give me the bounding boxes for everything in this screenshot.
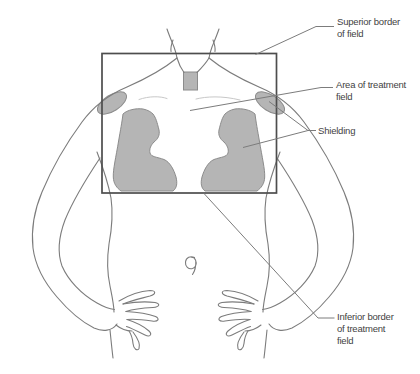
- inferior-border-label: Inferior border of treatment field: [337, 311, 394, 347]
- left-hand-finger-3: [126, 312, 158, 322]
- radiation-shields: [94, 72, 288, 191]
- right-arm-outer: [209, 58, 354, 330]
- neck-right-notch: [213, 40, 215, 52]
- inferior-border-label-line2: of treatment: [337, 323, 394, 335]
- inferior-border-label-line3: field: [337, 335, 394, 347]
- right-hand: [218, 291, 261, 350]
- vneck-right: [197, 58, 209, 73]
- left-arm-outer: [32, 58, 177, 330]
- left-hand-thumb: [129, 331, 139, 350]
- shielding-label: Shielding: [318, 125, 355, 137]
- superior-border-label-line2: of field: [337, 28, 400, 40]
- right-hand-finger-2: [218, 302, 254, 312]
- clavicle-lines: [139, 97, 240, 100]
- neck-left-notch: [171, 40, 173, 52]
- torso-left-side: [97, 152, 114, 312]
- treatment-area-label: Area of treatment field: [336, 79, 406, 103]
- superior-border-label: Superior border of field: [337, 16, 400, 40]
- mantle-field-diagram: Superior border of field Area of treatme…: [0, 0, 420, 374]
- shielding-label-text: Shielding: [318, 125, 355, 137]
- superior-border-label-line1: Superior border: [337, 16, 400, 28]
- navel-mark: [185, 257, 196, 275]
- superior-border-leader: [256, 27, 335, 55]
- left-hand-finger-2: [123, 302, 159, 312]
- treatment-area-label-line2: field: [336, 91, 406, 103]
- right-clavicle-line: [196, 97, 240, 100]
- torso-right-side: [263, 152, 280, 312]
- left-clavicle-line: [139, 97, 167, 100]
- right-thigh-line: [264, 330, 267, 358]
- right-arm-inner: [263, 158, 318, 310]
- laryngeal-shield: [184, 72, 198, 90]
- left-thigh-line: [110, 330, 113, 358]
- left-hand: [116, 291, 159, 350]
- treatment-area-label-line1: Area of treatment: [336, 79, 406, 91]
- left-lung-shield: [113, 109, 176, 191]
- left-arm-inner: [59, 158, 114, 310]
- right-lung-shield: [201, 109, 264, 191]
- inferior-border-label-line1: Inferior border: [337, 311, 394, 323]
- vneck-left: [177, 58, 184, 73]
- right-hand-thumb: [238, 331, 248, 350]
- right-hand-finger-3: [219, 312, 251, 322]
